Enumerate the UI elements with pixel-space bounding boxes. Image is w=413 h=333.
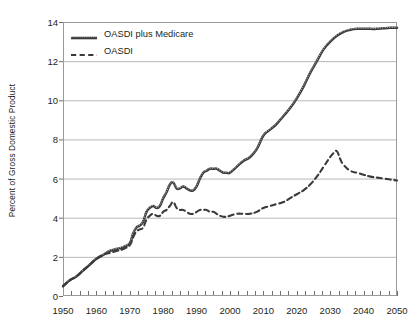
data-series [63, 27, 397, 286]
legend-swatch-solid-icon [71, 29, 97, 39]
chart-figure: Percent of Gross Domestic Product 024681… [0, 0, 413, 333]
y-axis-tick-labels: 02468101214 [34, 22, 58, 296]
y-tick-label: 0 [36, 291, 58, 302]
legend-item-oasdi-plus-medicare: OASDI plus Medicare [71, 25, 251, 42]
legend-label-oasdi: OASDI [104, 46, 133, 56]
plot-frame [64, 23, 397, 296]
plot-svg [63, 22, 397, 296]
legend-swatch-dashed-icon [71, 46, 97, 56]
plot-area [63, 22, 397, 296]
major-tick-marks [59, 23, 63, 297]
gridlines [63, 62, 397, 258]
y-tick-label: 10 [36, 95, 58, 106]
legend-item-oasdi: OASDI [71, 42, 251, 59]
chart-legend: OASDI plus Medicare OASDI [71, 25, 251, 59]
y-tick-label: 6 [36, 173, 58, 184]
series-line-texture [63, 27, 397, 285]
y-tick-label: 8 [36, 134, 58, 145]
y-tick-label: 2 [36, 251, 58, 262]
y-tick-label: 4 [36, 212, 58, 223]
y-tick-label: 12 [36, 56, 58, 67]
y-axis-label: Percent of Gross Domestic Product [9, 83, 18, 216]
y-tick-label: 14 [36, 17, 58, 28]
y-axis-label-container: Percent of Gross Domestic Product [0, 0, 26, 300]
legend-label-oasdi-plus-medicare: OASDI plus Medicare [104, 29, 193, 39]
x-axis-tick-labels: 1950196019701980199020002010202020302040… [63, 305, 397, 321]
x-tick-label: 2050 [374, 305, 413, 316]
series-line-oasdi-plus-medicare [63, 28, 397, 286]
